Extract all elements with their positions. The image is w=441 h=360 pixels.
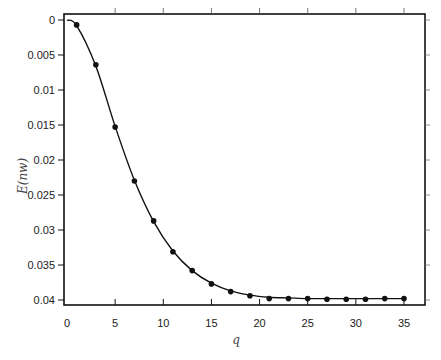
data-point bbox=[112, 124, 118, 130]
data-point bbox=[363, 297, 369, 303]
chart: 00.0050.010.0150.020.0250.030.0350.04 05… bbox=[0, 0, 441, 360]
plot-frame bbox=[64, 14, 425, 305]
data-markers bbox=[74, 22, 407, 302]
data-point bbox=[170, 249, 176, 255]
data-point bbox=[151, 218, 157, 224]
data-point bbox=[209, 281, 215, 287]
data-point bbox=[382, 296, 388, 302]
analytic-curve bbox=[67, 20, 404, 299]
x-tick-label: 30 bbox=[350, 317, 362, 329]
x-tick-label: 0 bbox=[64, 317, 70, 329]
x-tick-label: 20 bbox=[253, 317, 265, 329]
x-tick-label: 5 bbox=[112, 317, 118, 329]
y-tick-label: 0.005 bbox=[27, 49, 55, 61]
x-axis: 05101520253035 bbox=[64, 8, 410, 329]
data-point bbox=[305, 296, 311, 302]
x-tick-label: 25 bbox=[302, 317, 314, 329]
x-axis-title: q bbox=[232, 333, 240, 347]
y-axis-title: E(nw) bbox=[16, 158, 30, 195]
data-point bbox=[286, 296, 292, 302]
y-axis: 00.0050.010.0150.020.0250.030.0350.04 bbox=[27, 14, 430, 306]
data-point bbox=[343, 297, 349, 303]
data-point bbox=[74, 22, 80, 28]
y-tick-label: 0.035 bbox=[27, 259, 55, 271]
data-point bbox=[132, 178, 138, 184]
data-point bbox=[228, 289, 234, 295]
data-point bbox=[247, 293, 253, 299]
data-point bbox=[324, 297, 330, 303]
x-tick-label: 15 bbox=[205, 317, 217, 329]
x-tick-label: 35 bbox=[398, 317, 410, 329]
y-tick-label: 0 bbox=[49, 14, 55, 26]
x-tick-label: 10 bbox=[157, 317, 169, 329]
y-tick-label: 0.025 bbox=[27, 189, 55, 201]
y-tick-label: 0.02 bbox=[34, 154, 55, 166]
data-point bbox=[93, 62, 99, 68]
y-tick-label: 0.01 bbox=[34, 84, 55, 96]
data-point bbox=[266, 296, 272, 302]
y-tick-label: 0.03 bbox=[34, 224, 55, 236]
data-point bbox=[401, 296, 407, 302]
y-tick-label: 0.04 bbox=[34, 294, 55, 306]
y-tick-label: 0.015 bbox=[27, 119, 55, 131]
data-point bbox=[189, 268, 195, 274]
